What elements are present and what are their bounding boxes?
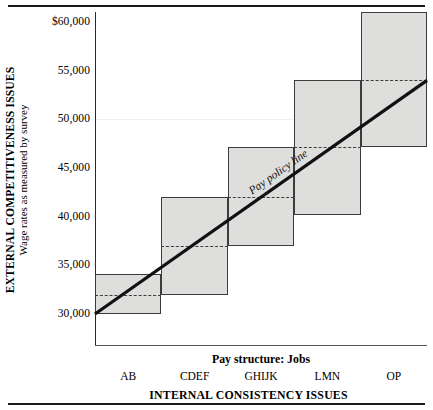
y-tick-label: 45,000	[30, 162, 90, 174]
range-midpoint-line	[228, 197, 294, 198]
x-category-label: GHIJK	[244, 370, 277, 382]
x-axis-title: INTERNAL CONSISTENCY ISSUES	[70, 388, 427, 403]
figure-container: EXTERNAL COMPETITIVENESS ISSUES Wage rat…	[0, 0, 433, 410]
x-category-label: OP	[386, 370, 401, 382]
plot-area: $60,00055,00050,00045,00040,00035,00030,…	[0, 0, 433, 410]
x-axis-subtitle: Pay structure: Jobs	[95, 352, 427, 367]
x-axis-line	[95, 345, 427, 346]
range-midpoint-line	[161, 246, 227, 247]
y-tick-label: $60,000	[30, 16, 90, 28]
range-midpoint-line	[361, 80, 427, 81]
x-category-label: CDEF	[180, 370, 209, 382]
x-axis-category-labels: ABCDEFGHIJKLMNOP	[95, 370, 427, 384]
x-category-label: LMN	[315, 370, 341, 382]
y-tick-label: 35,000	[30, 259, 90, 271]
y-axis-tick-labels: $60,00055,00050,00045,00040,00035,00030,…	[28, 12, 90, 345]
range-midpoint-line	[95, 295, 161, 296]
y-tick-label: 30,000	[30, 308, 90, 320]
y-tick-label: 40,000	[30, 211, 90, 223]
x-category-label: AB	[120, 370, 136, 382]
range-midpoint-line	[294, 147, 360, 148]
y-tick-label: 55,000	[30, 65, 90, 77]
y-tick-label: 50,000	[30, 113, 90, 125]
